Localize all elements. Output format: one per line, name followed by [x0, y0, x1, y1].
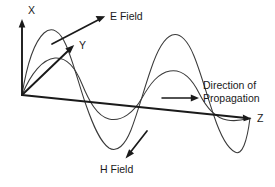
- h-field-pointer-line: [129, 131, 147, 154]
- e-field-label: E Field: [110, 10, 143, 22]
- e-field-pointer-line: [52, 19, 100, 44]
- y-axis-label: Y: [79, 39, 86, 51]
- h-field-label: H Field: [100, 163, 133, 175]
- y-axis-line: [22, 49, 70, 95]
- x-axis-label: X: [28, 4, 35, 16]
- z-axis-label: Z: [257, 112, 264, 124]
- em-wave-diagram: X Y Z E Field H Field Direction of Propa…: [0, 0, 275, 187]
- em-wave-illustration: X Y Z E Field H Field Direction of Propa…: [0, 0, 275, 187]
- propagation-arrowhead: [191, 95, 199, 102]
- x-axis-arrowhead: [19, 19, 26, 28]
- propagation-label-line1: Direction of: [203, 79, 256, 91]
- propagation-label-line2: Propagation: [203, 92, 260, 104]
